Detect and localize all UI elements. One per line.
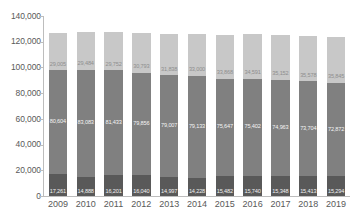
bar-column[interactable]: 33,86875,64715,482 <box>216 16 234 196</box>
bar-segment-label: 73,704 <box>299 126 317 132</box>
bar-segment-middle[interactable]: 73,704 <box>299 81 317 176</box>
bar-segment-label: 33,000 <box>188 67 206 73</box>
bar-segment-label: 31,838 <box>160 67 178 73</box>
bar-segment-bottom[interactable]: 15,482 <box>216 176 234 196</box>
bar-segment-middle[interactable]: 81,433 <box>104 70 122 175</box>
bar-segment-top[interactable]: 34,591 <box>243 34 261 78</box>
bar-segment-label: 29,752 <box>104 62 122 68</box>
bar-segment-label: 29,005 <box>49 62 67 68</box>
bar-segment-label: 15,294 <box>327 189 345 195</box>
y-tick-mark <box>39 119 43 120</box>
bar-segment-label: 80,604 <box>49 119 67 125</box>
bar-stack: 31,83879,00714,997 <box>160 34 178 196</box>
bar-segment-middle[interactable]: 79,007 <box>160 75 178 177</box>
bar-segment-label: 14,888 <box>77 189 95 195</box>
x-axis-label: 2012 <box>127 199 155 210</box>
bar-segment-label: 17,261 <box>49 189 67 195</box>
bar-segment-label: 72,872 <box>327 127 345 133</box>
bar-column[interactable]: 29,00580,60417,261 <box>49 16 67 196</box>
bar-segment-bottom[interactable]: 16,201 <box>104 175 122 196</box>
bar-stack: 35,57873,70415,413 <box>299 36 317 196</box>
bar-segment-label: 15,482 <box>216 189 234 195</box>
bar-segment-top[interactable]: 35,152 <box>271 35 289 80</box>
bar-segment-label: 35,152 <box>271 71 289 77</box>
bar-segment-label: 15,413 <box>299 189 317 195</box>
bar-segment-label: 16,201 <box>104 189 122 195</box>
bar-segment-middle[interactable]: 80,604 <box>49 70 67 174</box>
bar-segment-label: 15,740 <box>243 189 261 195</box>
bar-column[interactable]: 29,75281,43316,201 <box>104 16 122 196</box>
y-tick-mark <box>39 42 43 43</box>
bar-segment-top[interactable]: 31,838 <box>160 34 178 75</box>
x-axis-line <box>43 196 350 197</box>
bar-segment-label: 75,647 <box>216 125 234 131</box>
x-axis-labels: 2009201020112012201320142015201620172018… <box>44 199 350 219</box>
bar-segment-top[interactable]: 33,000 <box>188 34 206 76</box>
bar-stack: 29,00580,60417,261 <box>49 33 67 196</box>
y-tick-mark <box>39 196 43 197</box>
bar-segment-top[interactable]: 30,793 <box>132 33 150 73</box>
bar-segment-bottom[interactable]: 15,294 <box>327 176 345 196</box>
stacked-bar-chart: 020,00040,00060,00080,000100,000120,0001… <box>0 0 354 220</box>
x-axis-label: 2013 <box>155 199 183 210</box>
bar-segment-label: 15,348 <box>271 189 289 195</box>
bar-column[interactable]: 35,57873,70415,413 <box>299 16 317 196</box>
bar-segment-bottom[interactable]: 15,413 <box>299 176 317 196</box>
x-axis-label: 2019 <box>322 199 350 210</box>
y-tick-mark <box>39 67 43 68</box>
y-tick-mark <box>39 145 43 146</box>
x-axis-label: 2009 <box>44 199 72 210</box>
bar-segment-top[interactable]: 29,005 <box>49 33 67 70</box>
bar-segment-bottom[interactable]: 15,740 <box>243 176 261 196</box>
bar-segment-bottom[interactable]: 14,997 <box>160 177 178 196</box>
bar-segment-top[interactable]: 29,752 <box>104 32 122 70</box>
bar-segment-label: 35,845 <box>327 74 345 80</box>
bar-segment-top[interactable]: 33,868 <box>216 35 234 79</box>
bar-column[interactable]: 30,79379,85616,040 <box>132 16 150 196</box>
bar-segment-label: 30,793 <box>132 64 150 70</box>
bar-segment-label: 79,856 <box>132 121 150 127</box>
x-axis-label: 2018 <box>294 199 322 210</box>
bar-stack: 33,00079,13314,228 <box>188 34 206 196</box>
bar-segment-label: 34,591 <box>243 70 261 76</box>
y-tick-mark <box>39 170 43 171</box>
bar-segment-middle[interactable]: 75,402 <box>243 79 261 176</box>
bar-segment-middle[interactable]: 74,963 <box>271 80 289 176</box>
bar-column[interactable]: 34,59175,40215,740 <box>243 16 261 196</box>
bar-segment-label: 79,007 <box>160 123 178 129</box>
x-axis-label: 2015 <box>211 199 239 210</box>
x-axis-label: 2016 <box>239 199 267 210</box>
bar-segment-label: 81,433 <box>104 120 122 126</box>
x-axis-label: 2017 <box>267 199 295 210</box>
x-axis-label: 2010 <box>72 199 100 210</box>
bar-stack: 29,48483,08314,888 <box>77 32 95 196</box>
bar-segment-label: 29,484 <box>77 61 95 67</box>
bar-stack: 29,75281,43316,201 <box>104 32 122 196</box>
bar-segment-top[interactable]: 35,845 <box>327 37 345 83</box>
bar-segment-bottom[interactable]: 16,040 <box>132 175 150 196</box>
bar-segment-top[interactable]: 35,578 <box>299 36 317 82</box>
bar-column[interactable]: 33,00079,13314,228 <box>188 16 206 196</box>
bar-column[interactable]: 31,83879,00714,997 <box>160 16 178 196</box>
bar-segment-label: 16,040 <box>132 189 150 195</box>
bar-stack: 35,84572,87215,294 <box>327 37 345 196</box>
bar-column[interactable]: 35,84572,87215,294 <box>327 16 345 196</box>
bar-segment-middle[interactable]: 75,647 <box>216 79 234 176</box>
bar-segment-label: 75,402 <box>243 125 261 131</box>
bar-stack: 30,79379,85616,040 <box>132 33 150 196</box>
bar-segment-label: 14,228 <box>188 189 206 195</box>
x-axis-label: 2011 <box>100 199 128 210</box>
bar-column[interactable]: 29,48483,08314,888 <box>77 16 95 196</box>
bar-segment-bottom[interactable]: 15,348 <box>271 176 289 196</box>
bar-segment-middle[interactable]: 79,133 <box>188 76 206 178</box>
bar-column[interactable]: 35,15274,96315,348 <box>271 16 289 196</box>
bar-segment-middle[interactable]: 83,083 <box>77 70 95 177</box>
bar-segment-top[interactable]: 29,484 <box>77 32 95 70</box>
bar-segment-middle[interactable]: 79,856 <box>132 73 150 176</box>
bar-segment-middle[interactable]: 72,872 <box>327 83 345 177</box>
bars-layer: 29,00580,60417,26129,48483,08314,88829,7… <box>44 16 350 196</box>
bar-segment-bottom[interactable]: 14,228 <box>188 178 206 196</box>
bar-segment-bottom[interactable]: 14,888 <box>77 177 95 196</box>
bar-segment-label: 35,578 <box>299 73 317 79</box>
bar-segment-bottom[interactable]: 17,261 <box>49 174 67 196</box>
